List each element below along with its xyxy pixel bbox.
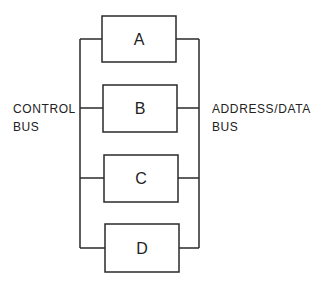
module-label-b: B [135, 100, 146, 117]
control-bus-label-line2: BUS [13, 118, 76, 136]
address-data-bus-label-line2: BUS [212, 118, 311, 136]
control-bus-label: CONTROL BUS [13, 100, 76, 136]
module-label-c: C [135, 170, 147, 187]
address-data-bus-label: ADDRESS/DATA BUS [212, 100, 311, 136]
address-data-bus-label-line1: ADDRESS/DATA [212, 100, 311, 118]
control-bus-label-line1: CONTROL [13, 100, 76, 118]
bus-diagram: A B C D [0, 0, 321, 282]
module-label-d: D [136, 240, 148, 257]
module-label-a: A [134, 31, 145, 48]
